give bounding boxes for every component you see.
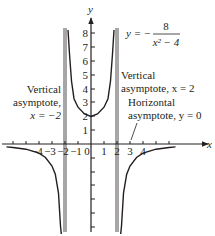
annotation-horizontal-asymptote: Horizontal asymptote, y = 0 bbox=[128, 96, 202, 140]
horizontal-asymptote-pointer bbox=[131, 123, 137, 140]
svg-text:asymptote,: asymptote, bbox=[13, 96, 61, 108]
y-tick-labels: 1 2 3 4 5 6 7 8 bbox=[83, 27, 89, 136]
svg-text:Horizontal: Horizontal bbox=[128, 96, 175, 108]
annotation-vertical-asymptote-neg2: Vertical asymptote, x = −2 bbox=[13, 83, 61, 121]
curve-left-branch bbox=[7, 147, 62, 234]
svg-text:−3: −3 bbox=[44, 145, 56, 157]
svg-text:−2: −2 bbox=[57, 145, 69, 157]
x-axis-label: x bbox=[206, 138, 212, 150]
svg-text:−1: −1 bbox=[70, 145, 82, 157]
vertical-asymptote-pos2 bbox=[116, 28, 118, 232]
annotation-vertical-asymptote-pos2: Vertical asymptote, x = 2 bbox=[121, 69, 194, 94]
svg-text:1: 1 bbox=[101, 145, 107, 157]
svg-text:1: 1 bbox=[83, 124, 89, 136]
x-tick-labels: −4 −3 −2 −1 0 1 2 3 4 bbox=[31, 145, 146, 157]
svg-text:asymptote, x = 2: asymptote, x = 2 bbox=[121, 82, 194, 94]
vertical-asymptote-neg2 bbox=[64, 28, 66, 232]
svg-text:2: 2 bbox=[114, 145, 120, 157]
svg-text:5: 5 bbox=[83, 69, 89, 81]
svg-text:0: 0 bbox=[84, 145, 90, 157]
svg-text:7: 7 bbox=[83, 41, 89, 53]
y-axis-label: y bbox=[87, 3, 93, 15]
equation-label: y = − 8 x² − 4 bbox=[125, 20, 180, 48]
svg-text:x² − 4: x² − 4 bbox=[152, 36, 180, 48]
rational-function-graph: x y −4 −3 −2 −1 0 1 2 3 4 bbox=[0, 0, 215, 236]
svg-text:x = −2: x = −2 bbox=[29, 109, 61, 121]
curve-right-branch bbox=[121, 147, 176, 234]
svg-text:4: 4 bbox=[83, 83, 89, 95]
svg-text:6: 6 bbox=[83, 55, 89, 67]
svg-text:Vertical: Vertical bbox=[27, 83, 61, 95]
svg-text:3: 3 bbox=[83, 96, 89, 108]
svg-text:Vertical: Vertical bbox=[121, 69, 155, 81]
svg-text:3: 3 bbox=[127, 145, 133, 157]
svg-text:y = −: y = − bbox=[125, 27, 151, 39]
svg-text:8: 8 bbox=[163, 20, 169, 32]
svg-text:asymptote, y = 0: asymptote, y = 0 bbox=[128, 109, 202, 121]
svg-text:8: 8 bbox=[83, 27, 89, 39]
